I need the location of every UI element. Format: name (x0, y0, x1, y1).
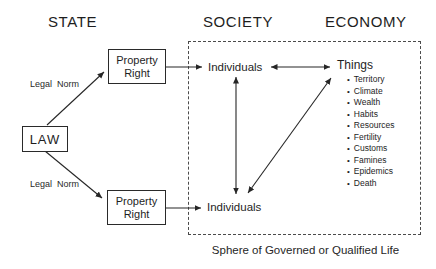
things-node: Things (337, 59, 373, 71)
list-item-label: Resources (354, 120, 395, 131)
law-label: LAW (30, 132, 61, 147)
economy-list-item: •Territory (347, 74, 394, 86)
economy-list-item: •Habits (347, 109, 394, 121)
list-item-label: Climate (354, 86, 383, 97)
economy-list-item: •Resources (347, 120, 394, 132)
economy-list-item: •Epidemics (347, 166, 394, 178)
economy-list-item: •Death (347, 178, 394, 190)
bullet-icon: • (347, 167, 350, 178)
list-item-label: Famines (354, 155, 387, 166)
property-right-bottom-label: Property Right (112, 195, 162, 220)
bullet-icon: • (347, 156, 350, 167)
header-state: STATE (48, 15, 97, 29)
bullet-icon: • (347, 75, 350, 86)
economy-attributes-list: •Territory •Climate •Wealth •Habits •Res… (347, 74, 394, 189)
sphere-caption: Sphere of Governed or Qualified Life (190, 244, 421, 256)
bullet-icon: • (347, 144, 350, 155)
economy-list-item: •Famines (347, 155, 394, 167)
arrow-law-to-property-right-bottom (45, 151, 102, 198)
list-item-label: Epidemics (354, 166, 393, 177)
list-item-label: Territory (354, 74, 385, 85)
list-item-label: Customs (354, 143, 388, 154)
header-economy: ECONOMY (325, 15, 407, 29)
property-right-top-box: Property Right (108, 49, 166, 84)
list-item-label: Wealth (354, 97, 380, 108)
bullet-icon: • (347, 87, 350, 98)
bullet-icon: • (347, 179, 350, 190)
header-society: SOCIETY (203, 15, 273, 29)
list-item-label: Fertility (354, 132, 381, 143)
bullet-icon: • (347, 133, 350, 144)
legal-norm-top-label: Legal Norm (30, 79, 79, 89)
individuals-top-node: Individuals (208, 61, 262, 73)
diagram-canvas: STATE SOCIETY ECONOMY LAW Property Right… (0, 0, 436, 269)
economy-list-item: •Wealth (347, 97, 394, 109)
bullet-icon: • (347, 98, 350, 109)
individuals-bottom-node: Individuals (207, 201, 261, 213)
economy-list-item: •Fertility (347, 132, 394, 144)
economy-list-item: •Customs (347, 143, 394, 155)
property-right-bottom-box: Property Right (107, 190, 166, 225)
bullet-icon: • (347, 121, 350, 132)
list-item-label: Habits (354, 109, 378, 120)
bullet-icon: • (347, 110, 350, 121)
law-box: LAW (22, 126, 68, 152)
property-right-top-label: Property Right (112, 54, 162, 79)
list-item-label: Death (354, 178, 377, 189)
economy-list-item: •Climate (347, 86, 394, 98)
legal-norm-bottom-label: Legal Norm (30, 179, 79, 189)
